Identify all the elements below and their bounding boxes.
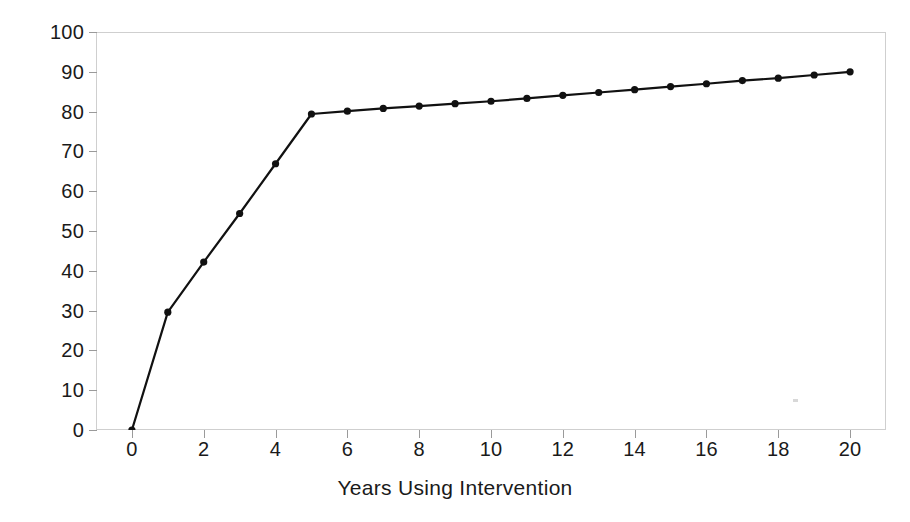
plot-area-frame [96, 32, 886, 430]
x-axis-tick-label: 2 [198, 438, 209, 461]
y-axis-tick-label: 40 [61, 259, 84, 282]
x-axis-tick-label: 6 [342, 438, 353, 461]
y-axis-title-wrap: Percent Mortality Averted [10, 0, 50, 460]
x-axis-tick-mark [419, 430, 420, 438]
x-axis-tick-label: 8 [414, 438, 425, 461]
x-axis-tick-label: 14 [623, 438, 646, 461]
y-axis-tick-mark [89, 311, 97, 312]
x-axis-tick-mark [347, 430, 348, 438]
x-axis-tick-mark [204, 430, 205, 438]
x-axis-tick-label: 4 [270, 438, 281, 461]
y-axis-tick-label: 80 [61, 100, 84, 123]
y-axis-tick-label: 100 [50, 21, 84, 44]
y-axis-tick-label: 30 [61, 299, 84, 322]
y-axis-tick-mark [89, 390, 97, 391]
y-axis-tick-mark [89, 32, 97, 33]
x-axis-tick-mark [276, 430, 277, 438]
x-axis-tick-mark [706, 430, 707, 438]
x-axis-title: Years Using Intervention [0, 476, 910, 500]
x-axis-tick-label: 12 [551, 438, 574, 461]
y-axis-tick-mark [89, 112, 97, 113]
y-axis-tick-label: 0 [73, 419, 84, 442]
y-axis-tick-label: 10 [61, 379, 84, 402]
y-axis-tick-mark [89, 191, 97, 192]
scan-speck [793, 399, 798, 402]
x-axis-tick-label: 18 [767, 438, 790, 461]
y-axis-tick-mark [89, 350, 97, 351]
x-axis-tick-mark [850, 430, 851, 438]
chart-figure: 0102030405060708090100 02468101214161820… [0, 0, 910, 522]
y-axis-tick-mark [89, 430, 97, 431]
y-axis-tick-label: 70 [61, 140, 84, 163]
x-axis-tick-mark [563, 430, 564, 438]
x-axis-tick-label: 20 [839, 438, 862, 461]
x-axis-tick-label: 0 [126, 438, 137, 461]
y-axis-tick-label: 60 [61, 180, 84, 203]
y-axis-tick-label: 20 [61, 339, 84, 362]
y-axis-tick-mark [89, 72, 97, 73]
x-axis-tick-mark [635, 430, 636, 438]
x-axis-tick-mark [491, 430, 492, 438]
x-axis-tick-label: 16 [695, 438, 718, 461]
x-axis-tick-mark [132, 430, 133, 438]
y-axis-tick-mark [89, 151, 97, 152]
x-axis-tick-label: 10 [480, 438, 503, 461]
y-axis-tick-label: 90 [61, 60, 84, 83]
y-axis-tick-label: 50 [61, 220, 84, 243]
x-axis-tick-mark [778, 430, 779, 438]
y-axis-tick-mark [89, 271, 97, 272]
y-axis-tick-mark [89, 231, 97, 232]
